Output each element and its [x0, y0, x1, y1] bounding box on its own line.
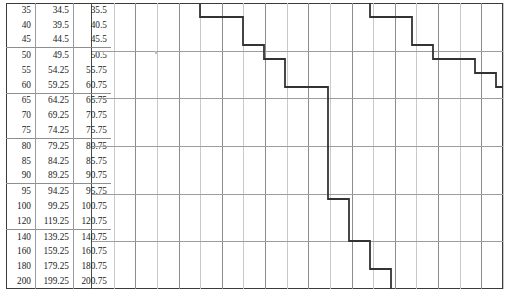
table-cell-nominal: 70 [6, 108, 36, 123]
gridline-horizontal [92, 194, 503, 195]
table-cell-lower: 64.25 [36, 93, 74, 108]
table-cell-lower: 159.25 [36, 245, 74, 260]
table-cell-nominal: 160 [6, 245, 36, 260]
gridline-horizontal [92, 98, 503, 99]
table-cell-nominal: 80 [6, 139, 36, 154]
table-cell-nominal: 120 [6, 214, 36, 229]
table-cell-nominal: 35 [6, 3, 36, 18]
gridline-horizontal [92, 241, 503, 242]
table-cell-nominal: 180 [6, 259, 36, 274]
table-cell-nominal: 90 [6, 169, 36, 184]
step-line-secondary [370, 3, 503, 87]
gridline-horizontal [92, 146, 503, 147]
table-cell-lower: 179.25 [36, 259, 74, 274]
table-cell-nominal: 60 [6, 78, 36, 93]
table-cell-nominal: 85 [6, 154, 36, 169]
gridline-vertical [503, 3, 504, 289]
table-cell-nominal: 100 [6, 199, 36, 214]
table-cell-lower: 119.25 [36, 214, 74, 229]
limits-table-container: 3534.535.54039.540.54544.545.55049.550.5… [6, 3, 92, 289]
table-cell-nominal: 65 [6, 93, 36, 108]
table-cell-nominal: 140 [6, 229, 36, 244]
table-cell-lower: 94.25 [36, 184, 74, 199]
table-cell-lower: 59.25 [36, 78, 74, 93]
table-cell-nominal: 75 [6, 123, 36, 138]
table-cell-lower: 89.25 [36, 169, 74, 184]
table-cell-nominal: 40 [6, 18, 36, 33]
table-cell-nominal: 45 [6, 33, 36, 48]
chart-grid-area [92, 3, 503, 289]
table-cell-lower: 139.25 [36, 229, 74, 244]
screenshot-root: 3534.535.54039.540.54544.545.55049.550.5… [0, 0, 509, 296]
table-cell-nominal: 55 [6, 63, 36, 78]
table-cell-lower: 39.5 [36, 18, 74, 33]
table-cell-lower: 79.25 [36, 139, 74, 154]
table-cell-lower: 84.25 [36, 154, 74, 169]
table-cell-nominal: 50 [6, 48, 36, 63]
table-cell-nominal: 95 [6, 184, 36, 199]
table-cell-lower: 34.5 [36, 3, 74, 18]
table-cell-lower: 54.25 [36, 63, 74, 78]
table-cell-lower: 49.5 [36, 48, 74, 63]
gridline-horizontal [92, 51, 503, 52]
table-cell-lower: 99.25 [36, 199, 74, 214]
table-cell-lower: 69.25 [36, 108, 74, 123]
table-cell-lower: 199.25 [36, 274, 74, 289]
table-cell-lower: 74.25 [36, 123, 74, 138]
table-cell-lower: 44.5 [36, 33, 74, 48]
table-cell-nominal: 200 [6, 274, 36, 289]
print-speck [155, 51, 157, 54]
